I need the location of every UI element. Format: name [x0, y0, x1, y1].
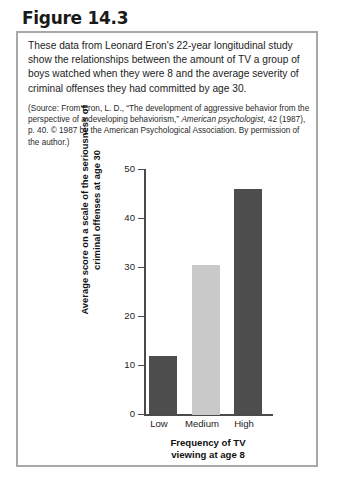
bar-low — [149, 356, 177, 415]
y-axis-tick-30 — [138, 267, 144, 268]
x-axis-label: Frequency of TV viewing at age 8 — [128, 437, 288, 462]
plot-area — [145, 169, 273, 415]
y-axis-tick-label-50: 50 — [124, 164, 135, 174]
y-axis-tick-10 — [138, 365, 144, 366]
y-axis-tick-label-30: 30 — [124, 262, 135, 272]
bar-chart: Average score on a scale of the seriousn… — [18, 33, 320, 469]
figure-panel: These data from Leonard Eron's 22-year l… — [16, 31, 318, 467]
y-axis-tick-label-10: 10 — [124, 360, 135, 370]
y-axis-tick-20 — [138, 316, 144, 317]
y-axis-label-wrapper: Average score on a scale of the seriousn… — [74, 95, 108, 325]
bar-medium — [192, 265, 220, 415]
figure-title: Figure 14.3 — [22, 8, 128, 28]
y-axis-label: Average score on a scale of the seriousn… — [79, 105, 104, 314]
y-axis-tick-label-20: 20 — [124, 311, 135, 321]
y-axis-tick-40 — [138, 218, 144, 219]
y-axis-tick-0 — [138, 414, 144, 415]
x-axis-tick-label-high: High — [214, 418, 274, 429]
y-axis-tick-50 — [138, 169, 144, 170]
bar-high — [234, 189, 262, 415]
y-axis-tick-label-40: 40 — [124, 213, 135, 223]
